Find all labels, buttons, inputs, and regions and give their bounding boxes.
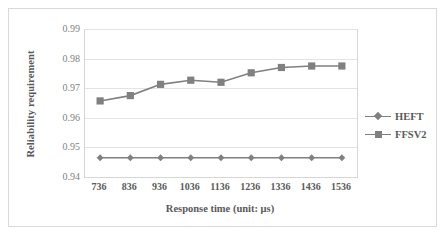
- series-ffsv2: [97, 62, 346, 104]
- y-tick-label: 0.95: [40, 142, 80, 152]
- x-tick-label: 1336: [263, 181, 297, 192]
- data-point: [217, 79, 224, 86]
- legend-item-ffsv2[interactable]: FFSV2: [365, 125, 437, 143]
- x-tick-label: 1036: [173, 181, 207, 192]
- legend-label: FFSV2: [395, 129, 427, 140]
- data-point: [157, 154, 164, 161]
- x-tick-label: 836: [112, 181, 146, 192]
- chart-legend: HEFTFFSV2: [365, 107, 437, 143]
- x-tick-label: 936: [143, 181, 177, 192]
- legend-marker: [374, 112, 382, 120]
- y-tick-label: 0.96: [40, 113, 80, 123]
- data-point: [278, 154, 285, 161]
- y-tick-label: 0.94: [40, 172, 80, 182]
- data-point: [187, 77, 194, 84]
- y-tick-label: 0.99: [40, 24, 80, 34]
- x-tick-label: 1236: [233, 181, 267, 192]
- y-axis-title-text: Reliability requirement: [25, 29, 36, 179]
- y-axis-title: Reliability requirement: [25, 0, 41, 29]
- square-marker-icon: [365, 128, 391, 140]
- x-tick-label: 1436: [294, 181, 328, 192]
- plot-area: 0.940.950.960.970.980.99: [84, 29, 358, 178]
- data-point: [157, 81, 164, 88]
- data-point: [127, 154, 134, 161]
- data-point: [187, 154, 194, 161]
- x-tick-label: 736: [82, 181, 116, 192]
- data-point: [218, 154, 225, 161]
- series-layer: [85, 29, 357, 177]
- data-point: [338, 154, 345, 161]
- series-heft: [97, 154, 346, 161]
- x-axis-title: Response time (unit: μs): [84, 203, 356, 214]
- data-point: [97, 154, 104, 161]
- legend-marker: [375, 131, 382, 138]
- diamond-marker-icon: [365, 110, 391, 122]
- x-tick-label: 1136: [203, 181, 237, 192]
- x-axis-ticks: 736836936103611361236133614361536: [84, 181, 356, 197]
- data-point: [97, 97, 104, 104]
- x-tick-label: 1536: [324, 181, 358, 192]
- y-tick-label: 0.97: [40, 83, 80, 93]
- data-point: [278, 64, 285, 71]
- legend-label: HEFT: [395, 111, 424, 122]
- chart-figure: Reliability requirement 0.940.950.960.97…: [8, 8, 437, 227]
- data-point: [308, 62, 315, 69]
- data-point: [248, 154, 255, 161]
- legend-item-heft[interactable]: HEFT: [365, 107, 437, 125]
- data-point: [248, 69, 255, 76]
- data-point: [127, 92, 134, 99]
- y-tick-label: 0.98: [40, 54, 80, 64]
- data-point: [338, 62, 345, 69]
- data-point: [308, 154, 315, 161]
